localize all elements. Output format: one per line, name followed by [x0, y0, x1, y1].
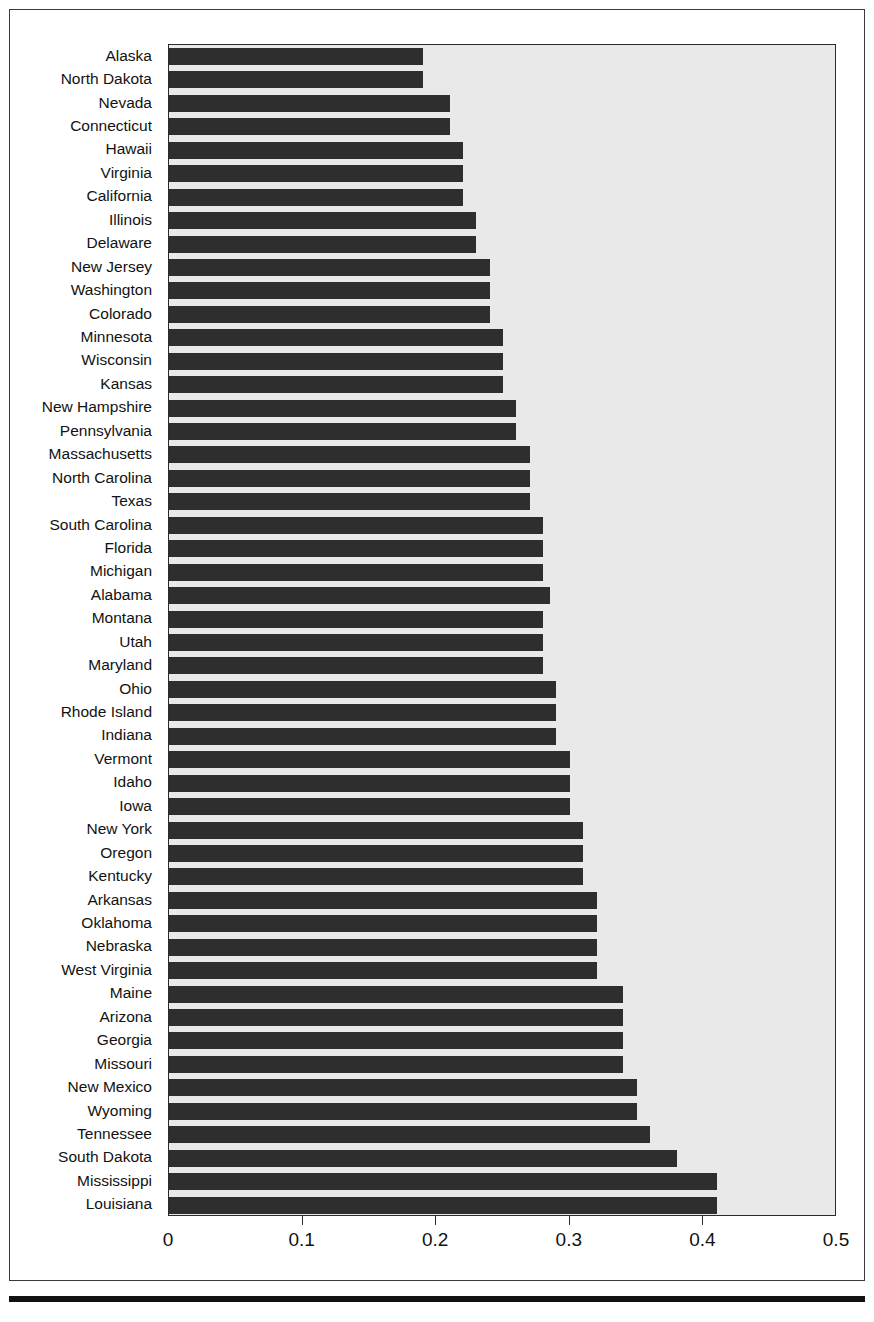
bar-row [169, 68, 837, 91]
y-axis-label: Minnesota [0, 329, 152, 345]
bar-row [169, 1006, 837, 1029]
x-axis-tick-label: 0.4 [689, 1229, 715, 1251]
bar [169, 1150, 677, 1167]
y-axis-label: Maryland [0, 657, 152, 673]
bar-row [169, 209, 837, 232]
bar [169, 892, 597, 909]
bar [169, 353, 503, 370]
bar [169, 400, 516, 417]
y-axis-label: Illinois [0, 212, 152, 228]
y-axis-label: New York [0, 821, 152, 837]
bar-row [169, 467, 837, 490]
y-axis-label: Arizona [0, 1009, 152, 1025]
bar-row [169, 654, 837, 677]
x-axis-tick [569, 1216, 570, 1225]
bar-row [169, 279, 837, 302]
bar [169, 681, 556, 698]
bar [169, 189, 463, 206]
bar [169, 798, 570, 815]
bar [169, 775, 570, 792]
y-axis-label: Kansas [0, 376, 152, 392]
y-axis-label: Tennessee [0, 1126, 152, 1142]
bar [169, 1126, 650, 1143]
bar [169, 517, 543, 534]
bar [169, 282, 490, 299]
y-axis-label: New Jersey [0, 259, 152, 275]
y-axis-label: Wisconsin [0, 352, 152, 368]
bars-layer [169, 45, 835, 1215]
bar [169, 657, 543, 674]
bar [169, 962, 597, 979]
x-axis-tick-label: 0.1 [288, 1229, 314, 1251]
bar [169, 704, 556, 721]
y-axis-label: Rhode Island [0, 704, 152, 720]
bar-row [169, 1100, 837, 1123]
bar-row [169, 162, 837, 185]
y-axis-label: Florida [0, 540, 152, 556]
y-axis-label: Georgia [0, 1032, 152, 1048]
bar-row [169, 1194, 837, 1217]
bar-row [169, 303, 837, 326]
bar-row [169, 889, 837, 912]
bar-row [169, 514, 837, 537]
bar [169, 587, 550, 604]
bar-row [169, 115, 837, 138]
y-axis-label: Texas [0, 493, 152, 509]
y-axis-label: Mississippi [0, 1173, 152, 1189]
bar-row [169, 1076, 837, 1099]
x-axis-tick-label: 0 [163, 1229, 174, 1251]
x-axis-tick [302, 1216, 303, 1225]
bar-row [169, 561, 837, 584]
bar-row [169, 701, 837, 724]
bar-row [169, 795, 837, 818]
y-axis-label: Utah [0, 634, 152, 650]
y-axis-label: Colorado [0, 306, 152, 322]
bar-row [169, 912, 837, 935]
y-axis-label: Ohio [0, 681, 152, 697]
y-axis-label: Hawaii [0, 141, 152, 157]
y-axis-label: South Carolina [0, 517, 152, 533]
x-axis-tick [702, 1216, 703, 1225]
y-axis-label: Montana [0, 610, 152, 626]
bar [169, 634, 543, 651]
bar [169, 212, 476, 229]
bar-row [169, 1053, 837, 1076]
y-axis-label: Connecticut [0, 118, 152, 134]
y-axis-label: Kentucky [0, 868, 152, 884]
bar [169, 611, 543, 628]
y-axis-label: Louisiana [0, 1196, 152, 1212]
y-axis-category-labels: AlaskaNorth DakotaNevadaConnecticutHawai… [0, 44, 160, 1216]
bar [169, 142, 463, 159]
bar-row [169, 186, 837, 209]
bar-row [169, 772, 837, 795]
bar-row [169, 608, 837, 631]
bar-row [169, 92, 837, 115]
bar-row [169, 373, 837, 396]
bar [169, 329, 503, 346]
bar [169, 48, 423, 65]
y-axis-label: North Dakota [0, 71, 152, 87]
bar-row [169, 584, 837, 607]
bar-row [169, 865, 837, 888]
bar [169, 470, 530, 487]
bar-row [169, 1170, 837, 1193]
y-axis-label: West Virginia [0, 962, 152, 978]
bar [169, 376, 503, 393]
bar [169, 939, 597, 956]
chart-page: AlaskaNorth DakotaNevadaConnecticutHawai… [0, 0, 874, 1322]
bar-row [169, 936, 837, 959]
y-axis-label: Arkansas [0, 892, 152, 908]
bar [169, 423, 516, 440]
bottom-rule [9, 1296, 865, 1302]
y-axis-label: California [0, 188, 152, 204]
bar-row [169, 45, 837, 68]
bar-row [169, 983, 837, 1006]
bar-row [169, 350, 837, 373]
bar [169, 1197, 717, 1214]
x-axis-tick-label: 0.2 [422, 1229, 448, 1251]
bar [169, 71, 423, 88]
y-axis-label: Virginia [0, 165, 152, 181]
y-axis-label: Alabama [0, 587, 152, 603]
y-axis-label: Pennsylvania [0, 423, 152, 439]
bar [169, 165, 463, 182]
